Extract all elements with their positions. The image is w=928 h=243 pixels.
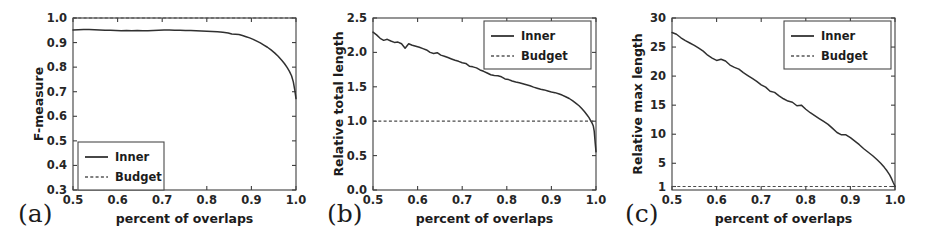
- legend-label: Budget: [521, 49, 568, 63]
- x-tick-label: 1.0: [586, 193, 606, 207]
- y-tick-label: 1.5: [347, 80, 367, 94]
- legend-label: Inner: [521, 29, 555, 43]
- y-tick-label: 0.5: [347, 149, 367, 163]
- x-tick-label: 0.8: [796, 193, 816, 207]
- chart-panel-c: 1510152025300.50.60.70.80.91.0percent of…: [619, 0, 928, 243]
- y-tick-label: 2.5: [347, 11, 367, 25]
- x-axis-label: percent of overlaps: [715, 211, 853, 226]
- y-tick-label: 10: [650, 127, 666, 141]
- x-tick-label: 0.7: [751, 193, 771, 207]
- x-tick-label: 1.0: [885, 193, 905, 207]
- y-tick-label: 1.0: [47, 11, 67, 25]
- x-tick-label: 0.9: [840, 193, 860, 207]
- x-tick-label: 0.8: [497, 193, 517, 207]
- x-axis-label: percent of overlaps: [416, 211, 554, 226]
- x-tick-label: 0.9: [541, 193, 561, 207]
- x-tick-label: 0.5: [662, 193, 682, 207]
- y-tick-label: 30: [650, 11, 666, 25]
- panel-label-c: (c): [625, 201, 659, 226]
- x-tick-label: 0.6: [706, 193, 726, 207]
- chart-panel-a: 0.30.40.50.60.70.80.91.00.50.60.70.80.91…: [0, 0, 309, 243]
- x-tick-label: 0.6: [407, 193, 427, 207]
- y-tick-label: 5: [658, 156, 666, 170]
- y-tick-label: 2.0: [347, 45, 367, 59]
- y-axis-label: Relative max length: [630, 33, 645, 174]
- y-tick-label: 0.7: [47, 85, 67, 99]
- x-tick-label: 0.7: [152, 193, 172, 207]
- x-tick-label: 0.5: [63, 193, 83, 207]
- y-tick-label: 1.0: [347, 114, 367, 128]
- legend-label: Budget: [115, 170, 162, 184]
- y-tick-label: 0.5: [47, 134, 67, 148]
- y-axis-label: F-measure: [31, 67, 46, 141]
- y-tick-label: 25: [650, 40, 666, 54]
- y-axis-label: Relative total length: [331, 31, 346, 176]
- y-tick-label: 0.8: [47, 60, 67, 74]
- legend-label: Inner: [821, 29, 855, 43]
- y-tick-label: 20: [650, 69, 666, 83]
- x-tick-label: 0.5: [363, 193, 383, 207]
- chart-svg-c: 1510152025300.50.60.70.80.91.0percent of…: [619, 0, 928, 243]
- y-tick-label: 0.9: [47, 36, 67, 50]
- series-line-inner: [73, 30, 296, 99]
- legend-label: Budget: [821, 49, 868, 63]
- y-tick-label: 0.4: [47, 158, 67, 172]
- y-tick-label: 0.6: [47, 109, 67, 123]
- x-tick-label: 0.8: [197, 193, 217, 207]
- panel-label-a: (a): [18, 201, 52, 226]
- y-tick-label: 1: [658, 180, 666, 194]
- legend-label: Inner: [115, 150, 149, 164]
- panel-label-b: (b): [327, 201, 363, 226]
- x-tick-label: 0.6: [107, 193, 127, 207]
- x-tick-label: 0.7: [452, 193, 472, 207]
- x-tick-label: 1.0: [286, 193, 306, 207]
- figure-three-panel-line-charts: 0.30.40.50.60.70.80.91.00.50.60.70.80.91…: [0, 0, 928, 243]
- chart-panel-b: 0.00.51.01.52.02.50.50.60.70.80.91.0perc…: [309, 0, 618, 243]
- x-axis-label: percent of overlaps: [116, 211, 254, 226]
- x-tick-label: 0.9: [241, 193, 261, 207]
- y-tick-label: 15: [650, 98, 666, 112]
